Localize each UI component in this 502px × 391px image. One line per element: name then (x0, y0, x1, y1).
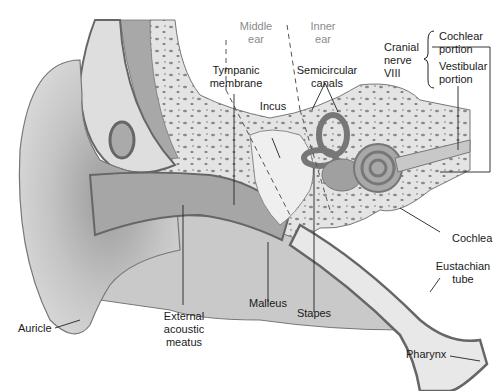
label-tympanic-membrane: Tympanic membrane (208, 64, 264, 90)
auricle-text: Auricle (18, 322, 52, 335)
label-cochlear-portion: Cochlear portion (439, 30, 483, 56)
external-line1: External (160, 310, 208, 323)
label-cranial-nerve-viii: Cranial nerve VIII (384, 41, 419, 80)
region-label-inner-ear: Inner ear (306, 20, 340, 46)
vestibular-line1: Vestibular (439, 60, 487, 73)
cochlea-art (354, 144, 402, 192)
eustachian-line2: tube (434, 273, 492, 286)
label-semicircular-canals: Semicircular canals (296, 64, 358, 90)
cartilage-island (110, 122, 134, 158)
region-label-middle-ear: Middle ear (235, 20, 277, 46)
external-line3: meatus (160, 336, 208, 349)
label-external-acoustic-meatus: External acoustic meatus (160, 310, 208, 349)
semicircular-line1: Semicircular (296, 64, 358, 77)
malleus-text: Malleus (246, 297, 290, 310)
label-cochlea: Cochlea (452, 232, 492, 245)
label-pharynx: Pharynx (406, 348, 446, 361)
cranial-line3: VIII (384, 67, 419, 80)
stapes-text: Stapes (294, 307, 334, 320)
middle-ear-line2: ear (235, 33, 277, 46)
label-stapes: Stapes (294, 307, 334, 320)
external-line2: acoustic (160, 323, 208, 336)
middle-ear-line1: Middle (235, 20, 277, 33)
label-incus: Incus (258, 100, 288, 113)
cochlear-line1: Cochlear (439, 30, 483, 43)
ear-anatomy-diagram: Middle ear Inner ear Tympanic membrane I… (0, 0, 502, 391)
label-eustachian-tube: Eustachian tube (434, 260, 492, 286)
cranial-line1: Cranial (384, 41, 419, 54)
inner-ear-line2: ear (306, 33, 340, 46)
nerve-brace (424, 31, 434, 88)
label-vestibular-portion: Vestibular portion (439, 60, 487, 86)
eustachian-line1: Eustachian (434, 260, 492, 273)
label-auricle: Auricle (18, 322, 52, 335)
cochlea-text: Cochlea (452, 232, 492, 245)
vestibular-line2: portion (439, 73, 487, 86)
semicircular-line2: canals (296, 77, 358, 90)
cranial-line2: nerve (384, 54, 419, 67)
cochlear-line2: portion (439, 43, 483, 56)
incus-text: Incus (258, 100, 288, 113)
ear-illustration (0, 0, 502, 391)
label-malleus: Malleus (246, 297, 290, 310)
tympanic-line2: membrane (208, 77, 264, 90)
inner-ear-line1: Inner (306, 20, 340, 33)
pharynx-text: Pharynx (406, 348, 446, 361)
tympanic-line1: Tympanic (208, 64, 264, 77)
